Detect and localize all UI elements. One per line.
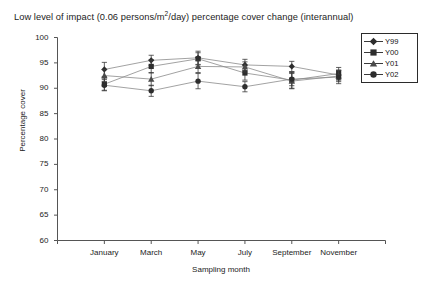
- legend-label-y00: Y00: [385, 48, 399, 57]
- legend-item-y00[interactable]: Y00: [362, 47, 417, 58]
- legend-item-y99[interactable]: Y99: [362, 36, 417, 47]
- legend-marker-triangle-icon: [364, 58, 383, 69]
- legend-marker-square-icon: [364, 47, 383, 58]
- legend-label-y02: Y02: [385, 70, 399, 79]
- chart-figure: Low level of impact (0.06 persons/m2/day…: [0, 0, 424, 286]
- legend-marker-diamond-icon: [364, 36, 383, 47]
- legend-item-y01[interactable]: Y01: [362, 58, 417, 69]
- legend-label-y01: Y01: [385, 59, 399, 68]
- legend-label-y99: Y99: [385, 37, 399, 46]
- legend-marker-circle-icon: [364, 69, 383, 80]
- chart-legend: Y99 Y00 Y01: [361, 33, 418, 83]
- legend-item-y02[interactable]: Y02: [362, 69, 417, 80]
